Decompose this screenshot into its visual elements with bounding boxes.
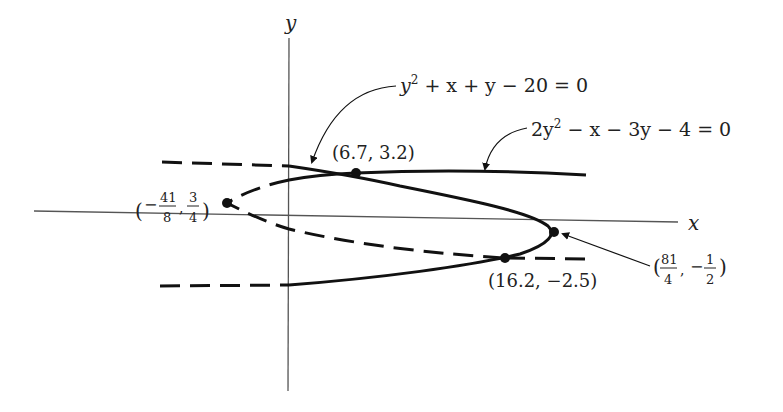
comma: , (680, 262, 684, 278)
label-point-2: (16.2, −2.5) (488, 270, 597, 291)
equation-curve-2: 2y2 − x − 3y − 4 = 0 (531, 117, 731, 140)
intersection-point-2 (500, 253, 510, 263)
leader-arrow-vertex-ellipse (563, 234, 650, 266)
label-vertex-ellipse: ( 81 4 , − 1 2 ) (653, 252, 727, 287)
minus-sign: − (690, 257, 703, 276)
vertex-point-ellipse (549, 227, 559, 237)
curve-2-dashed (227, 180, 505, 258)
curve-2-dashed-right (505, 258, 588, 259)
intersection-point-1 (351, 168, 361, 178)
vertex-point-parabola (222, 198, 232, 208)
x-axis (34, 211, 678, 222)
curve-1-dashed-upper (162, 162, 289, 166)
frac-den: 2 (706, 272, 714, 287)
frac-num: 41 (160, 190, 177, 205)
frac-den: 8 (163, 210, 171, 225)
leader-arrow-curve-2 (485, 128, 527, 169)
comma: , (179, 200, 183, 216)
x-axis-label: x (688, 211, 699, 235)
label-vertex-parabola: ( − 41 8 , 3 4 ) (135, 190, 210, 225)
frac-den: 4 (189, 210, 197, 225)
equation-curve-1: y2 + x + y − 20 = 0 (399, 73, 588, 96)
paren-close: ) (202, 199, 210, 223)
paren-open: ( (653, 255, 661, 279)
y-axis (288, 38, 289, 391)
minus-sign: − (144, 195, 157, 214)
paren-open: ( (135, 199, 143, 223)
curve-1-solid (289, 166, 551, 285)
curve-1-dashed-lower (160, 285, 289, 286)
frac-den: 4 (664, 272, 672, 287)
graph-figure: x y (6.7, 3.2) (16.2, −2.5) ( − 41 8 , 3… (0, 0, 783, 412)
label-point-1: (6.7, 3.2) (332, 142, 415, 163)
frac-num: 81 (661, 252, 678, 267)
frac-num: 3 (189, 190, 197, 205)
frac-num: 1 (706, 252, 714, 267)
y-axis-label: y (284, 11, 297, 35)
paren-close: ) (719, 255, 727, 279)
